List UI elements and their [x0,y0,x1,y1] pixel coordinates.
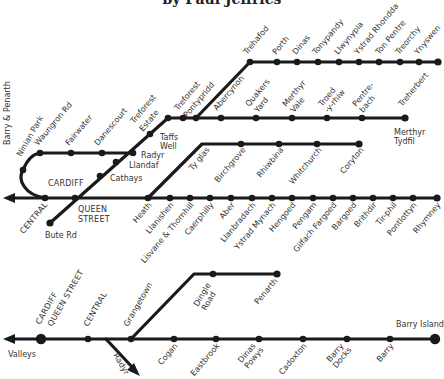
label-danescourt: Danescourt [93,106,129,147]
label-barry-penarth: Barry & Penarth [3,81,12,145]
station-merthyr-tydfil[interactable] [401,114,408,121]
label-barry-island: Barry Island [396,320,444,329]
valleys-lines-diagram: CARDIFF QUEEN STREET Bute Rd Cathays Lla… [3,2,443,265]
station-treorchy[interactable] [397,59,404,66]
label-cardiff: CARDIFF [48,179,84,188]
label-llandaf: Llandaf [129,161,159,170]
label-bute-rd: Bute Rd [45,231,77,240]
label-brithdir: Brithdir [352,200,379,229]
station-dinas[interactable] [294,59,301,66]
station-treforest-estate[interactable] [165,115,172,122]
station-ninian-park[interactable] [20,167,27,174]
station-llwynypia[interactable] [336,59,343,66]
label-valleys: Valleys [8,350,36,359]
label-treherbert: Treherbert [396,71,430,109]
label-porth: Porth [271,34,291,56]
station-pentre-bach[interactable] [359,115,366,122]
station-cathays[interactable] [97,173,104,180]
label-b-central: CENTRAL [82,290,109,328]
station-penarth[interactable] [273,270,280,277]
station-dinas-powys[interactable] [256,336,263,343]
rail-network-map: CARDIFF QUEEN STREET Bute Rd Cathays Lla… [0,0,444,379]
station-waungron-rd[interactable] [37,150,44,157]
label-fairwater: Fairwater [64,113,95,148]
label-cadoxton: Cadoxton [277,342,308,377]
label-tydfil: Tydfil [393,137,415,146]
station-central[interactable] [85,336,92,343]
label-cogan: Cogan [156,342,179,367]
label-penarth: Penarth [253,277,280,306]
label-birchgrove: Birchgrove [213,145,248,184]
label-rhiwbina: Rhiwbina [255,145,286,179]
station-quakers-yard[interactable] [253,115,260,122]
station-dingle-road[interactable] [210,271,217,278]
label-street: STREET [78,215,110,224]
coast-lines-diagram: CARDIFF QUEEN STREET CENTRAL Grangetown … [3,268,444,378]
label-queen: QUEEN [78,205,107,214]
station-bute-rd[interactable] [46,219,53,226]
station-treherbert[interactable] [434,58,441,65]
station-radyr[interactable] [130,150,137,157]
station-merthyr-vale[interactable] [289,115,296,122]
label-ty-glas: Ty glas [186,146,211,173]
station-danescourt[interactable] [99,150,106,157]
coryton-line [148,144,359,198]
station-troed-y-rhiw[interactable] [324,115,331,122]
station-ton-pentre[interactable] [376,59,383,66]
arrow-left-icon [3,334,15,344]
arrow-left-icon [3,193,15,203]
station-cardiff-queen-street[interactable] [36,334,46,344]
label-barry: Barry [375,341,396,364]
station-abercynon[interactable] [218,115,225,122]
station-central[interactable] [42,195,49,202]
station-ystrad-rhondda[interactable] [356,59,363,66]
station-fairwater[interactable] [68,150,75,157]
label-whitchurch: Whitchurch [287,146,323,187]
label-coryton: Coryton [338,146,365,176]
station-barry-island[interactable] [430,334,440,344]
label-merthyr: Merthyr [394,128,426,137]
label-taffs: Taffs [159,133,178,142]
label-trehafod: Trehafod [241,24,271,57]
station-taffs-well[interactable] [147,131,154,138]
label-cathays: Cathays [110,174,143,183]
label-radyr: Radyr [141,151,165,160]
label-eastbrook: Eastbrook [189,341,222,378]
label-well: Well [160,142,177,151]
station-tonypandy[interactable] [315,59,322,66]
station-pontypridd[interactable] [193,115,200,122]
label-abercynon: Abercynon [212,74,246,113]
station-ynyswen[interactable] [416,59,423,66]
station-llandaf[interactable] [113,159,120,166]
station-queen-street[interactable] [72,195,79,202]
station-trehafod[interactable] [247,59,254,66]
station-barry-docks[interactable] [344,336,351,343]
station-porth[interactable] [274,59,281,66]
label-aber: Aber [218,200,237,221]
label-dinas: Dinas [291,33,312,56]
station-grangetown[interactable] [128,336,135,343]
